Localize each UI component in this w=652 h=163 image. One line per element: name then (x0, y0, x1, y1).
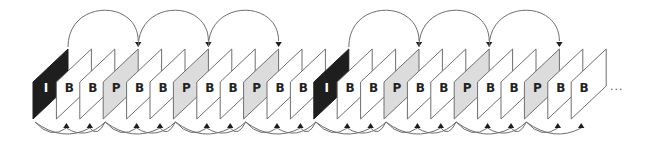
arrowhead-icon (157, 123, 163, 128)
bidirectional-arc (175, 122, 245, 134)
forward-arc (419, 10, 492, 47)
arrowhead-icon (414, 123, 420, 128)
bidirectional-arc (246, 122, 316, 134)
arrowhead-icon (63, 123, 69, 128)
arrowhead-icon (274, 123, 280, 128)
frame-label: B (158, 81, 167, 95)
forward-arc (489, 10, 562, 47)
frame-label: P (112, 81, 121, 95)
bidirectional-arc (105, 122, 175, 134)
frame-label: P (463, 81, 472, 95)
frame-label: B (486, 81, 495, 95)
arrowhead-icon (555, 123, 561, 128)
frame-label: I (325, 81, 329, 95)
arrowhead-icon (367, 123, 373, 128)
frame-label: B (416, 81, 425, 95)
forward-arc (349, 10, 422, 47)
frame-label: B (299, 81, 308, 95)
bidirectional-prediction-arcs (35, 122, 584, 134)
frame-label: P (182, 81, 191, 95)
arrowhead-icon (275, 42, 281, 47)
arrowhead-icon (438, 123, 444, 128)
frame-label: B (65, 81, 74, 95)
arrowhead-icon (87, 123, 93, 128)
frame-label: B (509, 81, 518, 95)
forward-arc (68, 10, 141, 47)
frame-label: B (369, 81, 378, 95)
frame-label: B (580, 81, 589, 95)
bidirectional-arc (386, 122, 456, 134)
frame-label: B (556, 81, 565, 95)
bidirectional-arc (456, 122, 526, 134)
bidirectional-arc (316, 122, 386, 134)
forward-arc (138, 10, 211, 47)
arrowhead-icon (344, 123, 350, 128)
continuation-ellipsis: ... (610, 80, 624, 93)
arrowhead-icon (556, 42, 562, 47)
frame-label: P (533, 81, 542, 95)
forward-arc (208, 10, 281, 47)
arrowhead-icon (578, 123, 584, 128)
frame-label: B (205, 81, 214, 95)
bidirectional-arc (526, 122, 584, 134)
frame-label: P (393, 81, 402, 95)
arrowhead-icon (204, 123, 210, 128)
frame-label: P (252, 81, 261, 95)
frame-label: B (439, 81, 448, 95)
frame-sequence: IBBPBBPBBPBBIBBPBBPBBPBB (33, 49, 606, 119)
arrowhead-icon (484, 123, 490, 128)
frame-label: B (229, 81, 238, 95)
frame-label: B (346, 81, 355, 95)
bidirectional-arc (35, 122, 105, 134)
arrowhead-icon (508, 123, 514, 128)
gop-frame-diagram: IBBPBBPBBPBBIBBPBBPBBPBB (0, 0, 652, 163)
arrowhead-icon (297, 123, 303, 128)
frame-label: B (275, 81, 284, 95)
arrowhead-icon (227, 123, 233, 128)
frame-label: B (135, 81, 144, 95)
frame-label: I (44, 81, 48, 95)
forward-prediction-arcs (68, 10, 563, 47)
frame-label: B (88, 81, 97, 95)
arrowhead-icon (133, 123, 139, 128)
